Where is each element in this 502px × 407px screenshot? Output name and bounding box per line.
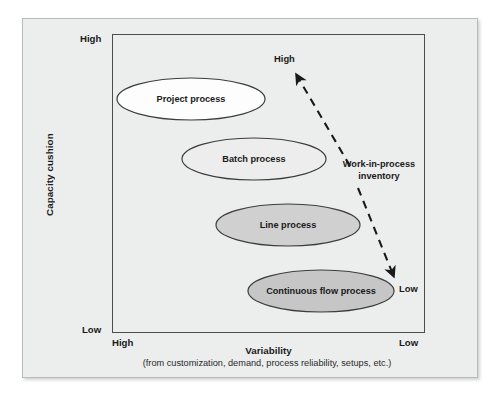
y-axis-low-label: Low [82, 324, 101, 335]
x-axis-title: Variability [112, 345, 425, 357]
wip-label-line1: Work-in-process [343, 159, 415, 169]
y-axis-title: Capacity cushion [44, 108, 60, 242]
plot-area-border [112, 34, 425, 333]
y-axis-high-label: High [80, 33, 101, 44]
wip-label-line2: inventory [331, 171, 427, 183]
wip-arrow-low-label: Low [399, 283, 418, 294]
wip-inventory-label: Work-in-process inventory [331, 159, 427, 183]
x-axis-subtitle: (from customization, demand, process rel… [62, 358, 472, 369]
wip-arrow-high-label: High [274, 53, 295, 64]
process-choice-figure: Project process Batch process Line proce… [0, 0, 502, 407]
